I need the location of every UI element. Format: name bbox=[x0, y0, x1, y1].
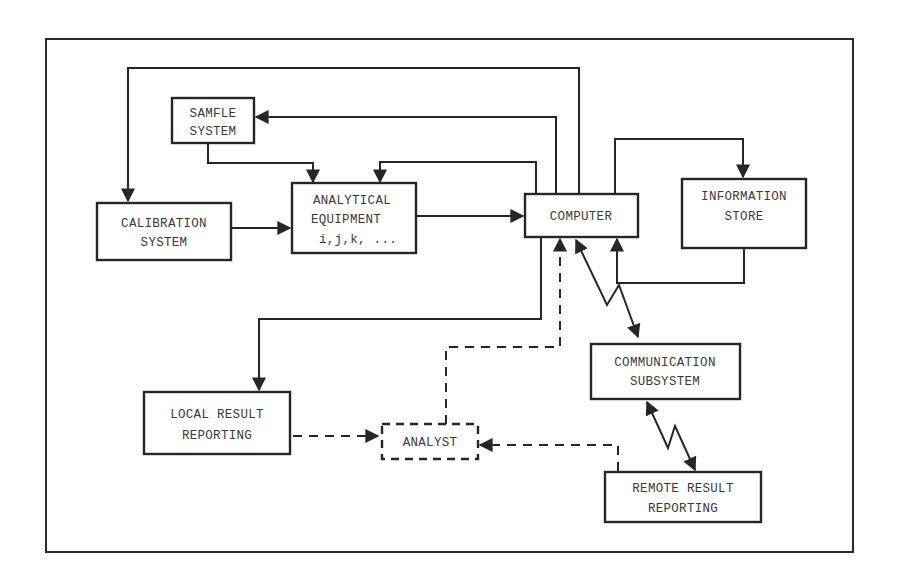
node-communication-subsystem: COMMUNICATION SUBSYSTEM bbox=[591, 344, 740, 399]
edge-analyst-to-computer bbox=[446, 239, 560, 424]
edge-computer-communication-link bbox=[576, 240, 638, 337]
node-analytical-equipment: ANALYTICAL EQUIPMENT i,j,k, ... bbox=[292, 183, 416, 253]
node-label: REPORTING bbox=[182, 429, 252, 443]
node-calibration-system: CALIBRATION SYSTEM bbox=[97, 203, 231, 260]
node-label: COMMUNICATION bbox=[614, 356, 715, 370]
node-local-result-reporting: LOCAL RESULT REPORTING bbox=[144, 392, 290, 454]
analytical-system-block-diagram: SAMFLE SYSTEM CALIBRATION SYSTEM ANALYTI… bbox=[0, 0, 898, 584]
node-label: SYSTEM bbox=[190, 125, 237, 139]
node-label: INFORMATION bbox=[701, 190, 787, 204]
node-label: COMPUTER bbox=[550, 210, 613, 224]
edge-sample-to-analytical bbox=[208, 143, 313, 182]
edge-communication-remote-link bbox=[647, 402, 695, 470]
node-label: ANALYST bbox=[403, 436, 458, 450]
edge-remote-reporting-to-analyst bbox=[480, 445, 618, 471]
node-label: CALIBRATION bbox=[121, 217, 207, 231]
edge-computer-to-local-reporting bbox=[259, 237, 541, 390]
node-label: i,j,k, ... bbox=[319, 233, 397, 247]
node-label: ANALYTICAL bbox=[313, 194, 391, 208]
node-label: SUBSYSTEM bbox=[630, 375, 700, 389]
node-analyst: ANALYST bbox=[382, 424, 478, 459]
node-label: SAMFLE bbox=[190, 107, 237, 121]
node-label: STORE bbox=[724, 210, 763, 224]
node-label: LOCAL RESULT bbox=[170, 408, 264, 422]
node-label: EQUIPMENT bbox=[311, 213, 381, 227]
node-remote-result-reporting: REMOTE RESULT REPORTING bbox=[605, 472, 761, 522]
node-label: SYSTEM bbox=[141, 236, 188, 250]
node-computer: COMPUTER bbox=[525, 194, 638, 237]
node-label: REMOTE RESULT bbox=[632, 482, 734, 496]
node-label: REPORTING bbox=[648, 502, 718, 516]
node-sample-system: SAMFLE SYSTEM bbox=[172, 98, 254, 143]
node-information-store: INFORMATION STORE bbox=[682, 179, 806, 248]
